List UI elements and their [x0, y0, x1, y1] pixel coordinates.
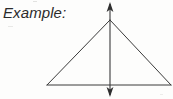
triangle-left-side	[47, 20, 110, 85]
triangle-right-side	[110, 20, 171, 85]
symmetry-triangle-figure	[0, 0, 173, 99]
scan-artifact	[8, 26, 13, 27]
symmetry-axis	[107, 2, 114, 97]
scan-artifact	[33, 1, 37, 2]
triangle-shape	[47, 20, 171, 85]
figure-container: Example:	[0, 0, 173, 99]
scan-artifact	[160, 94, 163, 95]
